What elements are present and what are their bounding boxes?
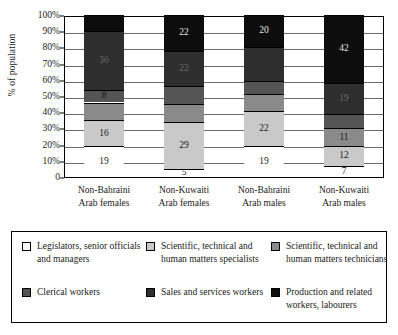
legend-label: Legislators, senior officials and manage…: [37, 240, 149, 265]
segment-value-label: 22: [179, 28, 189, 38]
segment-value-label: 19: [339, 94, 349, 104]
bar-segment[interactable]: [324, 114, 364, 129]
bar-segment[interactable]: 19: [84, 146, 124, 177]
bar-segment[interactable]: [164, 86, 204, 104]
legend-item[interactable]: Clerical workers: [22, 286, 149, 299]
y-tick-label: 100%: [16, 11, 60, 21]
segment-value-label: 20: [259, 26, 269, 36]
bar-segment[interactable]: [244, 94, 284, 110]
y-axis-ticks: 010%20%30%40%50%60%70%80%90%100%: [16, 0, 60, 226]
legend-swatch: [146, 242, 155, 251]
y-tick-label: 30%: [16, 125, 60, 135]
legend-swatch: [271, 242, 280, 251]
legend-label: Clerical workers: [37, 286, 149, 299]
bar-column[interactable]: 1916836: [84, 15, 124, 177]
plot-area: % of population 010%20%30%40%50%60%70%80…: [0, 0, 398, 226]
x-category-label: Non-KuwaitiArab males: [296, 184, 392, 209]
bar-segment[interactable]: 16: [84, 120, 124, 146]
plot-frame: 19168365292222192220712111942: [64, 16, 384, 178]
bar-segment[interactable]: 22: [244, 111, 284, 147]
bar-segment[interactable]: 29: [164, 122, 204, 169]
y-tick-label: 60%: [16, 76, 60, 86]
segment-value-label: 19: [259, 157, 269, 167]
bar-column[interactable]: 5292222: [164, 15, 204, 177]
legend-label: Scientific, technical and human matters …: [161, 240, 273, 265]
bar-segment[interactable]: 19: [244, 146, 284, 177]
bar-segment[interactable]: 19: [324, 83, 364, 114]
y-tick-label: 0: [16, 173, 60, 183]
segment-value-label: 36: [99, 56, 109, 66]
segment-value-label: 7: [342, 167, 347, 177]
segment-value-label: 22: [259, 124, 269, 134]
bar-segment[interactable]: [164, 104, 204, 122]
chart-figure: % of population 010%20%30%40%50%60%70%80…: [0, 0, 398, 335]
legend-label: Sales and services workers: [161, 286, 273, 299]
bar-segment[interactable]: [84, 15, 124, 31]
y-tick-label: 50%: [16, 92, 60, 102]
bar-segment[interactable]: [244, 81, 284, 94]
legend-swatch: [22, 288, 31, 297]
segment-value-label: 12: [339, 151, 349, 161]
x-axis-labels: Non-BahrainiArab femalesNon-KuwaitiArab …: [64, 184, 384, 218]
bar-segment[interactable]: 11: [324, 128, 364, 146]
segment-value-label: 29: [179, 141, 189, 151]
bar-segment[interactable]: [244, 47, 284, 81]
bar-segment[interactable]: 20: [244, 15, 284, 47]
y-tick-label: 40%: [16, 108, 60, 118]
bar-column[interactable]: 712111942: [324, 15, 364, 177]
y-tick-label: 80%: [16, 44, 60, 54]
bar-segment[interactable]: 7: [324, 166, 364, 177]
legend-item[interactable]: Sales and services workers: [146, 286, 273, 299]
legend-item[interactable]: Scientific, technical and human matters …: [146, 240, 273, 265]
bar-segment[interactable]: 36: [84, 31, 124, 89]
legend-item[interactable]: Scientific, technical and human matters …: [271, 240, 398, 265]
x-category-line: Arab males: [296, 197, 392, 210]
segment-value-label: 42: [339, 44, 349, 54]
bar-segment[interactable]: 8: [84, 90, 124, 103]
segment-value-label: 8: [102, 91, 107, 101]
y-tick-label: 10%: [16, 157, 60, 167]
legend-swatch: [271, 288, 280, 297]
legend-label: Production and related workers, labourer…: [286, 286, 398, 311]
legend-item[interactable]: Production and related workers, labourer…: [271, 286, 398, 311]
bar-segment[interactable]: [84, 103, 124, 121]
legend-label: Scientific, technical and human matters …: [286, 240, 398, 265]
legend-swatch: [22, 242, 31, 251]
segment-value-label: 22: [179, 64, 189, 74]
segment-value-label: 11: [339, 133, 348, 143]
legend-item[interactable]: Legislators, senior officials and manage…: [22, 240, 149, 265]
y-tick-label: 20%: [16, 141, 60, 151]
bar-segment[interactable]: 22: [164, 51, 204, 87]
chart-legend: Legislators, senior officials and manage…: [11, 231, 387, 323]
segment-value-label: 16: [99, 129, 109, 139]
y-tick-label: 70%: [16, 60, 60, 70]
bar-segment[interactable]: 22: [164, 15, 204, 51]
x-category-line: Non-Kuwaiti: [296, 184, 392, 197]
legend-swatch: [146, 288, 155, 297]
bar-segment[interactable]: 42: [324, 15, 364, 83]
segment-value-label: 5: [182, 168, 187, 178]
y-tick-label: 90%: [16, 27, 60, 37]
bar-segment[interactable]: 5: [164, 169, 204, 177]
bar-segment[interactable]: 12: [324, 146, 364, 165]
bar-column[interactable]: 192220: [244, 15, 284, 177]
segment-value-label: 19: [99, 157, 109, 167]
